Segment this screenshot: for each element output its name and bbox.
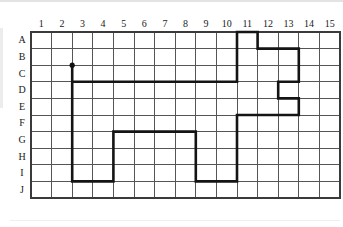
grid-sheet: 123456789101112131415 ABCDEFGHIJ <box>0 0 343 227</box>
start-point-dot <box>70 63 75 68</box>
dog-figure-drawing <box>0 0 343 227</box>
dog-outline-path <box>72 32 299 181</box>
worksheet-page: 123456789101112131415 ABCDEFGHIJ <box>0 0 343 227</box>
